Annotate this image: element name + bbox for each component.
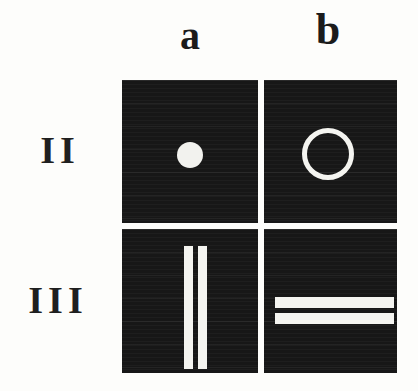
panel-grid (122, 80, 397, 373)
vertical-bar-shape (184, 246, 193, 369)
horizontal-bar-shape (275, 313, 394, 324)
column-label-b: b (288, 8, 368, 52)
vertical-bar-shape (198, 246, 207, 369)
horizontal-bar-shape (275, 297, 394, 308)
row-label-iii: III (2, 281, 114, 319)
figure-panel-grid: a b II III (0, 0, 418, 391)
panel-iib (264, 80, 397, 223)
panel-iib-shape-layer (264, 80, 397, 223)
row-label-ii: II (8, 131, 112, 169)
panel-iia-shape-layer (122, 80, 258, 223)
panel-iiia-shape-layer (122, 229, 258, 373)
ring-circle-shape (302, 128, 354, 180)
panel-iiib (264, 229, 397, 373)
panel-iiia (122, 229, 258, 373)
column-label-a: a (150, 16, 230, 56)
panel-iiib-shape-layer (264, 229, 397, 373)
panel-iia (122, 80, 258, 223)
filled-circle-shape (177, 142, 203, 168)
